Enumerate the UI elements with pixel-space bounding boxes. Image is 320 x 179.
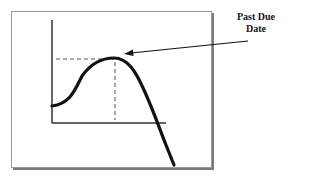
performance-curve (52, 58, 174, 165)
past-due-date-label: Past Due Date (229, 11, 283, 35)
label-line-1: Past Due (229, 11, 283, 23)
label-line-2: Date (229, 23, 283, 35)
arrow-head-icon (124, 50, 134, 57)
arrow-line (131, 41, 248, 53)
